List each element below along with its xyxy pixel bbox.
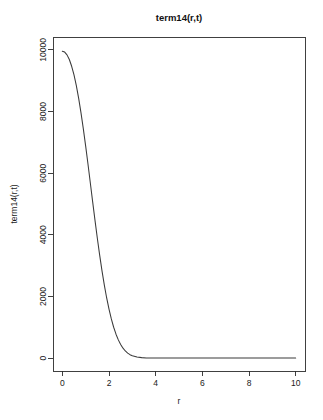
y-tick-label: 10000 — [38, 38, 48, 62]
y-tick-label: 6000 — [38, 163, 48, 182]
plot-canvas: term14(r,t) 0200040006000800010000 02468… — [0, 0, 323, 420]
y-tick-label: 0 — [38, 355, 48, 360]
x-tick-label: 8 — [247, 378, 252, 388]
x-tick-label: 4 — [153, 378, 158, 388]
x-tick-label: 2 — [107, 378, 112, 388]
plot-background — [0, 0, 323, 420]
x-tick-label: 6 — [200, 378, 205, 388]
y-axis-label: term14(r,t) — [9, 184, 19, 223]
y-tick-label: 2000 — [38, 287, 48, 306]
x-tick-label: 10 — [291, 378, 301, 388]
chart-title: term14(r,t) — [156, 12, 202, 23]
x-tick-label: 0 — [60, 378, 65, 388]
y-tick-label: 8000 — [38, 102, 48, 121]
chart-page: term14(r,t) 0200040006000800010000 02468… — [0, 0, 323, 420]
y-tick-label: 4000 — [38, 225, 48, 244]
x-axis-label: r — [178, 396, 181, 406]
